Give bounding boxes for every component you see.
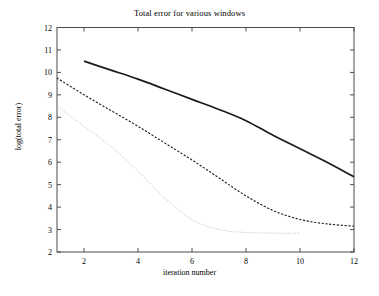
y-axis-label: log(total error) — [14, 82, 23, 172]
y-tick-label: 3 — [48, 226, 52, 235]
series-line-solid-curve — [84, 61, 354, 177]
y-tick-label: 5 — [48, 181, 52, 190]
series-line-dashed-curve — [57, 78, 354, 226]
y-tick-label: 7 — [48, 136, 52, 145]
y-tick-label: 8 — [48, 113, 52, 122]
x-tick-label: 6 — [190, 257, 194, 266]
plot-canvas: 24681012 23456789101112 — [0, 0, 379, 296]
y-tick-label: 6 — [48, 158, 52, 167]
series-line-dotted-curve — [57, 106, 300, 233]
x-tick-label: 4 — [136, 257, 140, 266]
plot-axes: 24681012 23456789101112 — [44, 24, 358, 267]
plot-frame — [57, 28, 354, 253]
chart-figure: Total error for various windows 24681012… — [0, 0, 379, 296]
y-tick-label: 10 — [44, 68, 52, 77]
y-axis-ticks: 23456789101112 — [44, 24, 354, 258]
x-axis-ticks: 24681012 — [82, 28, 358, 267]
x-tick-label: 12 — [350, 257, 358, 266]
x-tick-label: 8 — [244, 257, 248, 266]
y-tick-label: 12 — [44, 24, 52, 33]
x-tick-label: 2 — [82, 257, 86, 266]
x-tick-label: 10 — [296, 257, 304, 266]
y-tick-label: 4 — [48, 203, 52, 212]
y-tick-label: 9 — [48, 91, 52, 100]
x-axis-label: iteration number — [0, 268, 379, 277]
data-series-group — [57, 61, 354, 233]
y-tick-label: 11 — [44, 46, 52, 55]
y-tick-label: 2 — [48, 248, 52, 257]
